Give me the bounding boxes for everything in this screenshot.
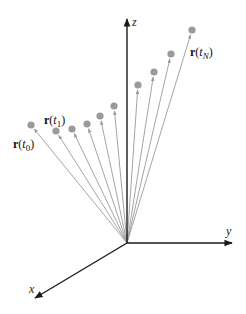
label-r-tN: r(tN) [190, 45, 213, 61]
label-r-t0: r(t0) [13, 137, 34, 153]
point-t7 [150, 68, 157, 75]
point-t6 [134, 81, 141, 88]
point-t9 [188, 26, 195, 33]
point-t8 [167, 50, 174, 57]
point-t0 [27, 121, 34, 128]
y-axis-label: y [225, 224, 232, 238]
point-t3 [83, 120, 90, 127]
position-vector-t4 [101, 121, 127, 243]
position-vector-t1 [59, 135, 127, 243]
point-t2 [68, 125, 75, 132]
label-r-t1: r(t1) [44, 113, 65, 129]
point-t4 [96, 112, 103, 119]
position-vector-t7 [127, 77, 153, 243]
x-axis-label: x [28, 282, 35, 296]
position-vectors-diagram: zyx r(t0)r(t1)r(tN) [0, 0, 246, 314]
point-t5 [110, 102, 117, 109]
x-axis [35, 243, 127, 298]
position-vector-t9 [127, 35, 191, 243]
z-axis-label: z [131, 15, 137, 29]
position-vectors [27, 26, 195, 243]
